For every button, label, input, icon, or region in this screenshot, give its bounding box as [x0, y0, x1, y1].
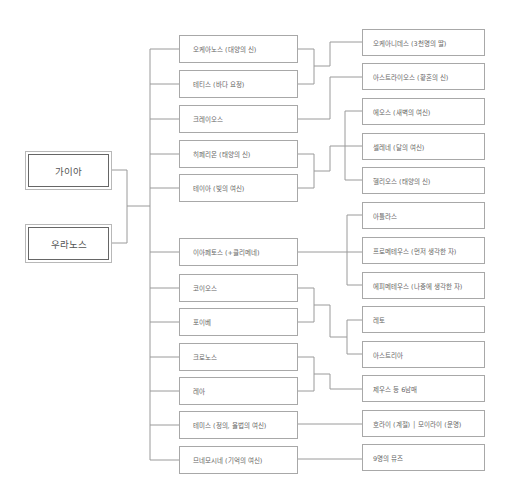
- node-label: 크로노스: [193, 352, 217, 362]
- node-theia: 테이아 (빛의 여신): [179, 174, 298, 202]
- node-zeus-siblings: 제우스 등 6남매: [362, 375, 485, 402]
- node-label: 셀레네 (달의 여신): [373, 142, 424, 152]
- node-label: 히페리온 (태양의 신): [193, 149, 250, 159]
- node-tethys: 테티스 (바다 요정): [179, 70, 298, 98]
- node-phoebe: 포이베: [179, 308, 298, 336]
- node-koios: 코이오스: [179, 274, 298, 302]
- node-kronos: 크로노스: [179, 343, 298, 371]
- node-prometheus: 프로메테우스 (먼저 생각한 자): [362, 237, 485, 264]
- node-themis: 테미스 (정의, 율법의 여신): [179, 411, 298, 439]
- node-label: 이아페토스 (+클리메네): [193, 247, 260, 257]
- node-label: 아틀라스: [373, 211, 397, 221]
- node-label: 아스트리아: [373, 350, 403, 360]
- node-helios: 헬리오스 (태양의 신): [362, 167, 485, 194]
- node-muses: 9명의 뮤즈: [362, 444, 485, 471]
- node-label: 오케아니데스 (3천명의 딸): [373, 38, 446, 48]
- node-gaia: 가이아: [25, 151, 112, 190]
- node-label: 제우스 등 6남매: [373, 384, 417, 394]
- node-label: 9명의 뮤즈: [373, 453, 403, 463]
- node-label: 에오스 (새벽의 여신): [373, 107, 430, 117]
- node-asteria: 아스트리아: [362, 341, 485, 368]
- node-label: 크레이오스: [193, 114, 223, 124]
- node-hyperion: 히페리온 (태양의 신): [179, 140, 298, 168]
- node-mnemosyne: 므네모시네 (기억의 여신): [179, 446, 298, 474]
- node-eos: 에오스 (새벽의 여신): [362, 98, 485, 125]
- node-epimetheus: 에피메테우스 (나중에 생각한 자): [362, 272, 485, 299]
- node-label: 가이아: [55, 164, 82, 178]
- node-astraeus: 아스트라이오스 (황혼의 신): [362, 63, 485, 90]
- node-crius: 크레이오스: [179, 105, 298, 133]
- node-okeanides: 오케아니데스 (3천명의 딸): [362, 29, 485, 56]
- node-atlas: 아틀라스: [362, 202, 485, 229]
- node-label: 테이아 (빛의 여신): [193, 183, 244, 193]
- node-rhea: 레아: [179, 377, 298, 405]
- node-label: 포이베: [193, 317, 211, 327]
- node-label: 레토: [373, 315, 385, 325]
- node-label: 프로메테우스 (먼저 생각한 자): [373, 246, 456, 256]
- node-horai-moirai: 호라이 (계절) │ 모이라이 (운명): [362, 410, 485, 437]
- node-label: 헬리오스 (태양의 신): [373, 176, 430, 186]
- node-selene: 셀레네 (달의 여신): [362, 133, 485, 160]
- node-label: 아스트라이오스 (황혼의 신): [373, 72, 448, 82]
- node-label: 테티스 (바다 요정): [193, 79, 244, 89]
- node-label: 코이오스: [193, 283, 217, 293]
- node-label: 호라이 (계절) │ 모이라이 (운명): [373, 419, 461, 429]
- node-label: 에피메테우스 (나중에 생각한 자): [373, 281, 462, 291]
- node-label: 오케아노스 (대양의 신): [193, 44, 256, 54]
- node-leto: 레토: [362, 306, 485, 333]
- node-label: 테미스 (정의, 율법의 여신): [193, 420, 266, 430]
- node-oceanus: 오케아노스 (대양의 신): [179, 35, 298, 63]
- node-label: 우라노스: [51, 237, 87, 251]
- node-label: 레아: [193, 386, 205, 396]
- node-label: 므네모시네 (기억의 여신): [193, 455, 262, 465]
- node-iapetus: 이아페토스 (+클리메네): [179, 238, 298, 266]
- node-uranus: 우라노스: [25, 224, 112, 263]
